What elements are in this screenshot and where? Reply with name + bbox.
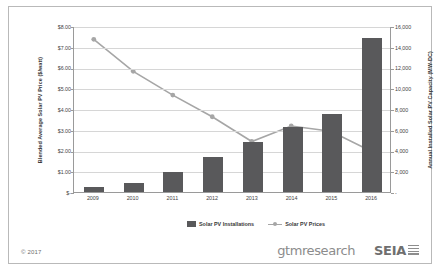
right-axis-tick: 14,000 <box>395 45 435 51</box>
chart-legend: Solar PV Installations Solar PV Prices <box>141 217 371 231</box>
x-label-2011: 2011 <box>152 195 192 201</box>
left-axis-tick: $- <box>31 190 71 196</box>
right-tick-mark <box>391 152 394 153</box>
left-axis-tick: $4.00 <box>31 107 71 113</box>
price-marker-2011 <box>170 93 175 98</box>
right-axis-tick: - <box>395 190 435 196</box>
right-axis-tick: 6,000 <box>395 128 435 134</box>
price-marker-2012 <box>210 114 215 119</box>
right-tick-mark <box>391 131 394 132</box>
left-tick-mark <box>71 131 74 132</box>
right-axis-tick: 16,000 <box>395 24 435 30</box>
right-axis-tick: 4,000 <box>395 148 435 154</box>
x-label-2013: 2013 <box>232 195 272 201</box>
bar-2014 <box>283 127 303 192</box>
gridline <box>74 152 390 153</box>
right-tick-mark <box>391 48 394 49</box>
left-tick-mark <box>71 27 74 28</box>
price-marker-2009 <box>91 37 96 42</box>
right-axis-tick: 8,000 <box>395 107 435 113</box>
line-marker-swatch-icon <box>268 221 282 228</box>
left-axis-tick: $8.00 <box>31 24 71 30</box>
gridline <box>74 89 390 90</box>
x-label-2009: 2009 <box>73 195 113 201</box>
legend-item-prices: Solar PV Prices <box>268 221 325 228</box>
right-axis-tick: 12,000 <box>395 65 435 71</box>
left-axis-tick: $7.00 <box>31 45 71 51</box>
left-axis-tick: $3.00 <box>31 128 71 134</box>
seia-logo-text: SEIA <box>374 243 406 258</box>
x-label-2015: 2015 <box>311 195 351 201</box>
right-tick-mark <box>391 69 394 70</box>
bar-2009 <box>84 187 104 192</box>
left-tick-mark <box>71 110 74 111</box>
left-tick-mark <box>71 193 74 194</box>
bar-2012 <box>203 157 223 192</box>
left-axis-tick: $2.00 <box>31 148 71 154</box>
right-tick-mark <box>391 193 394 194</box>
plot-area: $--$1.002,000$2.004,000$3.006,000$4.008,… <box>73 27 391 193</box>
left-tick-mark <box>71 152 74 153</box>
copyright-text: © 2017 <box>21 249 42 255</box>
x-label-2010: 2010 <box>113 195 153 201</box>
striped-square-icon <box>408 245 419 256</box>
price-marker-2010 <box>131 69 136 74</box>
right-tick-mark <box>391 172 394 173</box>
bar-swatch-icon <box>187 221 196 227</box>
x-label-2014: 2014 <box>272 195 312 201</box>
bar-2016 <box>362 38 382 192</box>
chart-footer: © 2017 gtmresearch SEIA <box>9 231 431 263</box>
gridline <box>74 131 390 132</box>
left-tick-mark <box>71 89 74 90</box>
bar-2015 <box>322 114 342 192</box>
right-axis-tick: 2,000 <box>395 169 435 175</box>
chart-container: Blended Average Solar PV Price ($/watt) … <box>29 21 429 217</box>
legend-label-prices: Solar PV Prices <box>285 221 325 227</box>
screenshot-page: Blended Average Solar PV Price ($/watt) … <box>0 0 442 274</box>
bar-2010 <box>124 183 144 192</box>
legend-label-installations: Solar PV Installations <box>199 221 254 227</box>
right-tick-mark <box>391 27 394 28</box>
gridline <box>74 48 390 49</box>
right-tick-mark <box>391 89 394 90</box>
bar-2011 <box>163 172 183 192</box>
left-tick-mark <box>71 48 74 49</box>
gtm-research-logo: gtmresearch <box>277 243 355 258</box>
right-axis-tick: 10,000 <box>395 86 435 92</box>
left-tick-mark <box>71 69 74 70</box>
left-axis-tick: $1.00 <box>31 169 71 175</box>
chart-frame: Blended Average Solar PV Price ($/watt) … <box>8 6 432 264</box>
x-label-2016: 2016 <box>351 195 391 201</box>
gridline <box>74 69 390 70</box>
x-label-2012: 2012 <box>192 195 232 201</box>
bar-2013 <box>243 142 263 192</box>
left-axis-tick: $5.00 <box>31 86 71 92</box>
seia-logo: SEIA <box>374 243 419 258</box>
left-tick-mark <box>71 172 74 173</box>
right-tick-mark <box>391 110 394 111</box>
gridline <box>74 27 390 28</box>
legend-item-installations: Solar PV Installations <box>187 221 254 227</box>
left-axis-tick: $6.00 <box>31 65 71 71</box>
gridline <box>74 172 390 173</box>
gridline <box>74 110 390 111</box>
